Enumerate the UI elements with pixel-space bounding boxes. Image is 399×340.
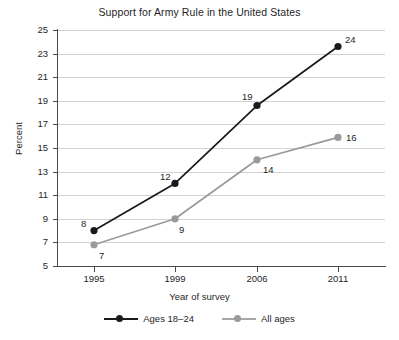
y-tick-mark	[53, 124, 58, 125]
chart-figure: Support for Army Rule in the United Stat…	[0, 0, 399, 340]
data-point-label: 8	[81, 219, 86, 229]
y-tick-mark	[53, 30, 58, 31]
x-tick-label: 1999	[150, 274, 200, 284]
data-point-label: 7	[99, 251, 104, 261]
y-axis-title: Percent	[13, 109, 24, 169]
gridline-y	[58, 242, 385, 243]
chart-legend: Ages 18–24 All ages	[0, 313, 399, 324]
legend-item-all-ages[interactable]: All ages	[222, 313, 295, 324]
y-tick-mark	[53, 266, 58, 267]
x-tick-label: 1995	[69, 274, 119, 284]
y-tick-label: 19	[18, 96, 48, 106]
gridline-y	[58, 148, 385, 149]
y-tick-mark	[53, 148, 58, 149]
legend-label: Ages 18–24	[143, 313, 194, 324]
gridline-y	[58, 54, 385, 55]
y-tick-mark	[53, 242, 58, 243]
y-tick-label: 11	[18, 190, 48, 200]
gridline-y	[58, 124, 385, 125]
data-point-label: 12	[160, 172, 171, 182]
gridline-y	[58, 77, 385, 78]
y-tick-mark	[53, 195, 58, 196]
y-tick-label: 5	[18, 261, 48, 271]
data-point-label: 14	[263, 165, 274, 175]
data-point-label: 16	[346, 133, 357, 143]
x-axis-line	[57, 266, 386, 267]
y-tick-mark	[53, 101, 58, 102]
data-point-label: 19	[242, 92, 253, 102]
data-point-label: 9	[179, 225, 184, 235]
y-tick-label: 7	[18, 237, 48, 247]
x-tick-mark	[257, 267, 258, 272]
x-tick-label: 2011	[313, 274, 363, 284]
y-tick-mark	[53, 54, 58, 55]
x-axis-title: Year of survey	[0, 291, 399, 302]
y-tick-label: 21	[18, 72, 48, 82]
y-tick-label: 9	[18, 214, 48, 224]
y-tick-label: 17	[18, 119, 48, 129]
data-point-label: 24	[345, 35, 356, 45]
legend-marker-icon	[104, 314, 138, 324]
y-tick-label: 13	[18, 167, 48, 177]
legend-marker-icon	[222, 314, 256, 324]
gridline-y	[58, 30, 385, 31]
x-tick-mark	[175, 267, 176, 272]
y-tick-mark	[53, 77, 58, 78]
y-tick-mark	[53, 172, 58, 173]
x-tick-mark	[94, 267, 95, 272]
gridline-y	[58, 172, 385, 173]
x-tick-mark	[338, 267, 339, 272]
plot-area	[58, 30, 385, 266]
y-tick-mark	[53, 219, 58, 220]
legend-item-ages-18-24[interactable]: Ages 18–24	[104, 313, 194, 324]
gridline-y	[58, 219, 385, 220]
x-tick-label: 2006	[232, 274, 282, 284]
gridline-y	[58, 101, 385, 102]
gridline-y	[58, 195, 385, 196]
y-tick-label: 15	[18, 143, 48, 153]
y-tick-label: 23	[18, 49, 48, 59]
chart-title: Support for Army Rule in the United Stat…	[0, 6, 399, 18]
legend-label: All ages	[261, 313, 295, 324]
y-tick-label: 25	[18, 25, 48, 35]
